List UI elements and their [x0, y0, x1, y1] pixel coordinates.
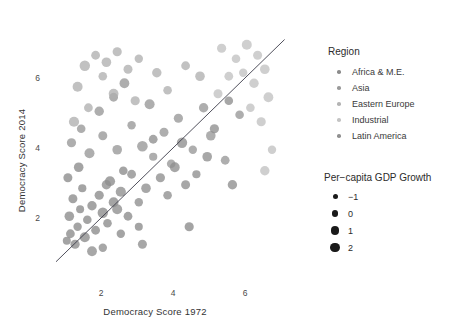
data-point — [149, 135, 158, 144]
region-legend-label: Asia — [350, 83, 370, 93]
x-tick-label: 4 — [163, 288, 183, 298]
region-swatch-icon — [328, 86, 350, 90]
data-point — [160, 128, 169, 137]
data-point — [84, 148, 94, 158]
gdp-growth-legend-title: Per−capita GDP Growth — [324, 172, 431, 183]
data-point — [95, 107, 104, 116]
region-legend-item[interactable]: Industrial — [328, 112, 415, 128]
gdp-growth-legend: Per−capita GDP Growth −1012 — [324, 172, 431, 256]
gdp-growth-legend-item[interactable]: 2 — [324, 239, 431, 256]
data-point — [99, 72, 108, 81]
data-point — [228, 180, 237, 189]
data-point — [145, 99, 155, 109]
data-point — [63, 173, 72, 182]
data-point — [268, 146, 276, 154]
region-legend-item[interactable]: Africa & M.E. — [328, 64, 415, 80]
region-legend-label: Industrial — [350, 115, 389, 125]
data-point — [135, 55, 143, 63]
x-tick-label: 6 — [235, 288, 255, 298]
size-swatch-icon — [324, 210, 346, 217]
region-swatch-icon — [328, 70, 350, 74]
data-point — [117, 230, 125, 238]
data-point — [102, 57, 112, 67]
gdp-growth-legend-label: −1 — [346, 192, 358, 202]
data-point — [253, 51, 262, 60]
region-swatch-icon — [328, 134, 350, 138]
data-point — [214, 89, 223, 98]
data-point — [127, 121, 135, 129]
data-point — [102, 180, 111, 189]
data-point — [156, 173, 165, 182]
gdp-growth-legend-item[interactable]: 0 — [324, 205, 431, 222]
data-point — [77, 124, 86, 133]
data-point — [137, 141, 148, 152]
data-point — [202, 152, 212, 162]
data-point — [195, 71, 205, 81]
data-point — [91, 51, 100, 60]
region-legend-item[interactable]: Latin America — [328, 128, 415, 144]
gdp-growth-legend-item[interactable]: −1 — [324, 188, 431, 205]
data-point — [113, 47, 122, 56]
data-point — [225, 96, 234, 105]
data-point — [152, 68, 161, 77]
data-point — [239, 69, 247, 77]
data-point — [99, 244, 107, 252]
region-legend-item[interactable]: Eastern Europe — [328, 96, 415, 112]
data-point — [181, 61, 190, 70]
region-swatch-icon — [328, 102, 350, 106]
size-swatch-icon — [324, 226, 346, 234]
data-point — [124, 65, 133, 74]
data-point — [74, 162, 84, 172]
data-point — [98, 131, 107, 140]
data-point — [112, 145, 122, 155]
data-point — [174, 114, 183, 123]
y-tick-label: 6 — [20, 73, 40, 83]
data-point — [83, 215, 92, 224]
data-point — [124, 212, 133, 221]
gdp-growth-legend-label: 1 — [346, 226, 353, 236]
data-point — [119, 166, 128, 175]
region-legend-title: Region — [328, 46, 415, 57]
data-point — [246, 103, 255, 112]
data-point — [224, 72, 233, 81]
data-point — [149, 153, 157, 161]
data-point — [66, 229, 75, 238]
scatter-plot-figure: Democracy Score 1972 Democracy Score 201… — [0, 0, 458, 330]
data-point — [260, 64, 270, 74]
data-point — [87, 246, 97, 256]
data-point — [181, 180, 190, 189]
region-legend-label: Latin America — [350, 131, 407, 141]
size-swatch-icon — [324, 243, 346, 253]
y-tick-label: 2 — [20, 213, 40, 223]
data-point — [189, 146, 197, 154]
data-point — [131, 96, 140, 105]
data-point — [257, 117, 266, 126]
data-point — [199, 103, 208, 112]
data-point — [163, 86, 172, 95]
data-point — [232, 54, 241, 63]
data-point — [109, 89, 119, 99]
data-point — [91, 226, 100, 235]
y-axis-title: Democracy Score 2014 — [16, 91, 27, 231]
data-point — [264, 92, 274, 102]
data-point — [135, 198, 143, 206]
gdp-growth-legend-item[interactable]: 1 — [324, 222, 431, 239]
region-legend-item[interactable]: Asia — [328, 80, 415, 96]
data-point — [78, 184, 86, 192]
data-point — [163, 191, 172, 200]
region-legend: Region Africa & M.E.AsiaEastern EuropeIn… — [328, 46, 415, 144]
gdp-growth-legend-label: 0 — [346, 209, 353, 219]
data-point — [170, 162, 180, 172]
data-point — [135, 223, 143, 231]
data-point — [221, 156, 230, 165]
data-point — [217, 44, 226, 53]
data-point — [210, 124, 219, 133]
region-legend-label: Eastern Europe — [350, 99, 415, 109]
region-swatch-icon — [328, 118, 350, 122]
gdp-growth-legend-label: 2 — [346, 243, 353, 253]
data-point — [76, 205, 84, 213]
data-point — [70, 240, 79, 249]
data-point — [69, 117, 79, 127]
data-point — [127, 170, 136, 179]
data-point — [80, 61, 90, 71]
